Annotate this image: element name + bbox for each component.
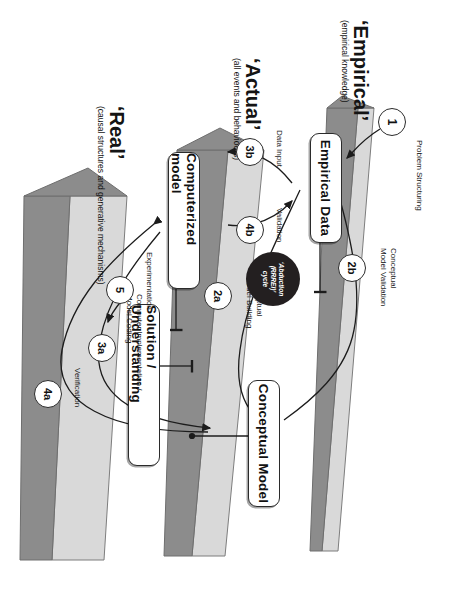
step-circle-2a[interactable]: 2a xyxy=(204,282,232,310)
step-circle-3a[interactable]: 3a xyxy=(88,334,116,362)
abduction-line-2: (RRREI)’ xyxy=(269,266,277,293)
box-empirical-data[interactable]: Empirical Data xyxy=(310,133,342,243)
stratum-title-actual: ‘Actual’ xyxy=(241,58,264,130)
step-circle-4b[interactable]: 4b xyxy=(236,216,264,244)
diagram-canvas: ‘Empirical’ (empirical knowledge) ‘Actua… xyxy=(0,0,460,608)
step-circle-1[interactable]: 1 xyxy=(378,108,406,136)
step-label-4a: Verification xyxy=(73,368,82,407)
step-circle-2b[interactable]: 2b xyxy=(338,254,366,282)
prism-real xyxy=(20,168,127,560)
stratum-subtitle-real: (causal structures and generative mechan… xyxy=(96,106,106,285)
abduction-line-1: ‘Abduction xyxy=(277,262,285,296)
step-label-4b: Validation xyxy=(275,208,284,243)
step-circle-5[interactable]: 5 xyxy=(106,276,134,304)
step-label-5: Experimentation xyxy=(145,252,154,310)
step-label-3b: Data Input xyxy=(275,130,284,167)
abduction-cycle-badge: ‘Abduction (RRREI)’ cycle xyxy=(246,252,300,306)
rotated-artboard: ‘Empirical’ (empirical knowledge) ‘Actua… xyxy=(0,0,460,608)
step-label-3a: Computer Implementation / Model Coding xyxy=(125,294,145,391)
stratum-title-empirical: ‘Empirical’ xyxy=(349,20,372,121)
step-label-1: Problem Structuring xyxy=(415,140,424,211)
stratum-subtitle-empirical: (empirical knowledge) xyxy=(340,20,350,103)
step-label-2b: Conceptual Model Validation xyxy=(379,248,399,307)
abduction-line-3: cycle xyxy=(261,271,269,288)
box-computerized-model[interactable]: Computerized model xyxy=(168,152,200,289)
step-circle-3b[interactable]: 3b xyxy=(236,138,264,166)
step-circle-4a[interactable]: 4a xyxy=(34,380,62,408)
box-conceptual-model[interactable]: Conceptual Model xyxy=(248,380,280,507)
stratum-title-real: ‘Real’ xyxy=(105,106,128,159)
